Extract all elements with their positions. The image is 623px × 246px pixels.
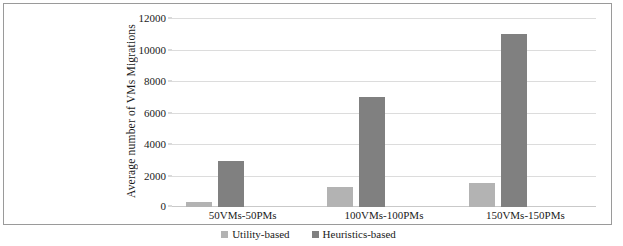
figure-caption: [6, 232, 406, 242]
bar: [469, 183, 495, 207]
y-axis-tick-label: 4000: [144, 138, 166, 150]
y-axis-tick-label: 6000: [144, 107, 166, 119]
y-axis-tick-label: 8000: [144, 75, 166, 87]
bar: [218, 161, 244, 207]
chart-figure: Average number of VMs Migrations 0200040…: [3, 3, 612, 225]
y-axis-tick-label: 10000: [139, 44, 167, 56]
y-axis-title-container: Average number of VMs Migrations: [122, 16, 140, 206]
x-axis-tick-label: 50VMs-50PMs: [209, 209, 277, 221]
x-axis-labels: 50VMs-50PMs100VMs-100PMs150VMs-150PMs: [172, 209, 596, 225]
bar-group: [455, 18, 596, 207]
bar: [501, 34, 527, 207]
bar-group: [313, 18, 454, 207]
plot-area: 020004000600080001000012000: [172, 18, 596, 207]
y-axis-tick-label: 12000: [139, 12, 167, 24]
y-axis-title: Average number of VMs Migrations: [125, 24, 137, 198]
bar-series-container: [172, 18, 596, 207]
bar: [359, 97, 385, 207]
x-axis-tick-label: 150VMs-150PMs: [486, 209, 565, 221]
bar-group: [172, 18, 313, 207]
bar: [186, 202, 212, 207]
bar: [327, 187, 353, 207]
y-axis-tick-label: 0: [161, 200, 167, 212]
x-axis-tick-label: 100VMs-100PMs: [345, 209, 424, 221]
y-axis-tick-label: 2000: [144, 170, 166, 182]
